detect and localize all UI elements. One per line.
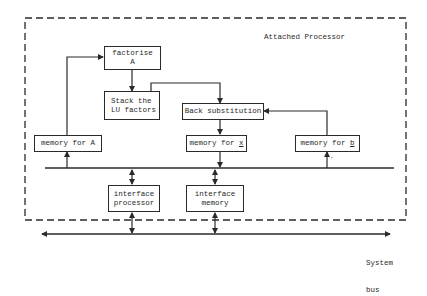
diagram-title: Attached Processor [264,33,345,42]
interface-memory-line2: memory [201,199,228,208]
memory-for-x-prefix: memory for [189,139,239,148]
memory-for-b-arrow-mark: ’ [330,155,334,164]
memory-for-x-block: memory for x [186,135,247,152]
memory-for-b-block: memory for b [295,135,360,152]
arrow-memb-to-backsub [264,111,327,135]
memory-for-a-block: memory for A [34,135,102,152]
stack-line2: LU factors [111,106,156,115]
memory-for-a-label: memory for A [41,139,95,148]
interface-processor-block: interface processor [108,185,160,212]
interface-memory-line1: interface [195,190,236,199]
interface-memory-block: interface memory [186,185,244,212]
factorise-line2: A [130,58,135,67]
factorise-block: factorise A [104,46,161,70]
interface-processor-line1: interface [114,190,155,199]
stack-line1: Stack the [111,97,152,106]
back-substitution-block: Back substitution [182,103,264,120]
interface-processor-line2: processor [114,199,155,208]
system-bus-label-line1: System [366,259,393,268]
memory-for-b-prefix: memory for [300,139,350,148]
arrow-memA-to-factorise [67,57,103,135]
factorise-line1: factorise [112,49,153,58]
stack-lu-block: Stack the LU factors [104,91,160,120]
memory-for-b-var: b [350,139,355,148]
back-substitution-label: Back substitution [185,107,262,116]
system-bus-label-line2: bus [366,286,393,295]
system-bus-label: System bus [366,241,393,296]
arrow-stack-to-backsub [151,83,220,103]
memory-for-x-var: x [239,139,244,148]
